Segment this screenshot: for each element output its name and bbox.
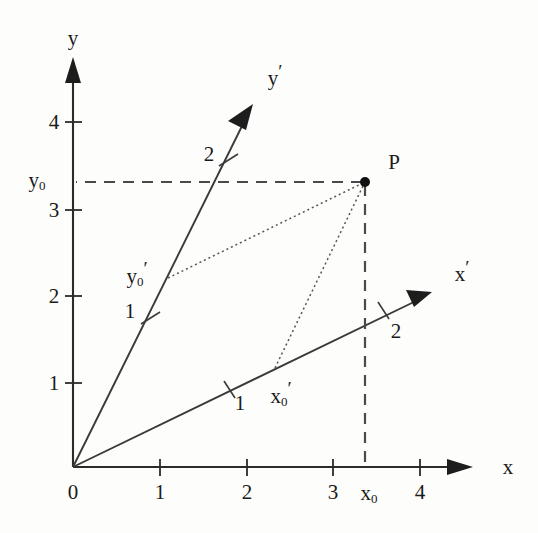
y-prime-axis-group bbox=[73, 104, 253, 467]
y-prime-axis-label: y′ bbox=[268, 61, 283, 92]
y0-prime-label-mark: ′ bbox=[143, 258, 147, 279]
x0-label-sub: 0 bbox=[371, 491, 378, 506]
y0-label: y0 bbox=[29, 168, 46, 195]
x-tick-label-2: 2 bbox=[242, 480, 253, 505]
point-p-label: P bbox=[388, 150, 400, 175]
x-tick-label-4: 4 bbox=[415, 480, 426, 505]
x0-prime-label-mark: ′ bbox=[287, 378, 291, 399]
origin-label: 0 bbox=[68, 480, 79, 505]
x-tick-label-1: 1 bbox=[155, 480, 166, 505]
dotted-line-from-x0-prime bbox=[275, 184, 364, 368]
y-prime-axis-arrowhead bbox=[228, 104, 253, 130]
y-prime-tick-label-2: 2 bbox=[204, 142, 215, 167]
y-axis-label: y bbox=[68, 26, 79, 51]
y0-label-sub: 0 bbox=[39, 178, 46, 193]
y-tick-label-1: 1 bbox=[49, 371, 60, 396]
x-tick-label-3: 3 bbox=[328, 480, 339, 505]
y-axis-group bbox=[65, 57, 82, 467]
oblique-coordinate-diagram: y x 0 1 2 3 4 1 2 3 4 y′ x′ 1 2 1 2 P x0… bbox=[0, 0, 538, 533]
dotted-line-from-y0-prime bbox=[168, 183, 363, 278]
y-tick-label-3: 3 bbox=[49, 198, 60, 223]
x-prime-axis-line bbox=[73, 300, 418, 467]
x-prime-axis-label-mark: ′ bbox=[465, 257, 469, 278]
x-prime-tick-label-1: 1 bbox=[235, 391, 246, 416]
x0-prime-label-base: x bbox=[270, 384, 281, 408]
x0-label-base: x bbox=[361, 481, 372, 505]
y-tick-label-2: 2 bbox=[49, 284, 60, 309]
y0-prime-label: y0′ bbox=[126, 258, 147, 291]
y0-label-base: y bbox=[29, 168, 40, 192]
y-tick-label-4: 4 bbox=[49, 110, 60, 135]
dashed-projections-group bbox=[76, 182, 365, 465]
x-axis-arrowhead bbox=[447, 459, 473, 475]
x-prime-axis-label: x′ bbox=[455, 257, 470, 288]
x0-label: x0 bbox=[361, 481, 378, 508]
y-prime-tick-1 bbox=[141, 312, 160, 324]
y0-prime-label-base: y bbox=[126, 264, 137, 288]
y-prime-axis-label-base: y bbox=[268, 66, 279, 90]
x-axis-label: x bbox=[503, 455, 514, 480]
x-axis-group bbox=[73, 459, 473, 476]
point-p-marker bbox=[360, 177, 370, 187]
y-axis-arrowhead bbox=[65, 57, 81, 83]
x-prime-tick-label-2: 2 bbox=[391, 319, 402, 344]
y-prime-axis-line bbox=[73, 118, 246, 467]
x0-prime-label: x0′ bbox=[270, 378, 291, 411]
y-prime-axis-label-mark: ′ bbox=[278, 61, 282, 82]
y-prime-tick-label-1: 1 bbox=[125, 299, 136, 324]
y-prime-tick-2 bbox=[219, 154, 238, 166]
x-prime-axis-label-base: x bbox=[455, 262, 466, 286]
